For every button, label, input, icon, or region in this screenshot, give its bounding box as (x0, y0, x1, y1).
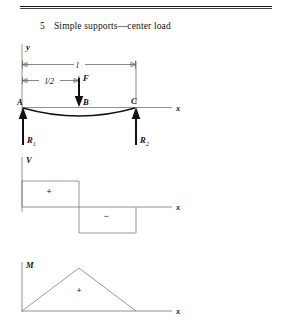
shear-positive-sign: + (46, 186, 51, 196)
moment-positive-sign: + (76, 285, 81, 295)
reaction-left-label: R (26, 135, 33, 145)
dimension-full-label: l (76, 60, 79, 70)
reaction-right-arrow: R 2 (132, 107, 149, 147)
beam-point-c-label: C (131, 96, 137, 106)
applied-load-arrowhead-icon (75, 96, 84, 107)
deflected-beam-curve (23, 108, 135, 116)
beam-point-b-label: B (82, 97, 89, 107)
dimension-half-span: l/2 (23, 76, 79, 86)
shear-v-axis-label: V (26, 155, 33, 165)
moment-x-axis-label: x (175, 306, 181, 316)
beam-diagram-group: y x l (16, 42, 181, 147)
beam-point-a-label: A (16, 97, 23, 107)
shear-x-axis-label: x (175, 202, 181, 212)
moment-diagram-group: M x + (22, 260, 181, 316)
dimension-half-label: l/2 (45, 76, 55, 86)
applied-load-label: F (82, 73, 89, 83)
beam-y-axis-label: y (25, 42, 30, 52)
reaction-left-subscript: 1 (33, 141, 36, 147)
beam-x-axis-label: x (175, 103, 181, 113)
figure-page: 5Simple supports—center load y x l (0, 0, 290, 332)
reaction-right-label: R (139, 135, 146, 145)
shear-negative-sign: − (103, 211, 108, 221)
reaction-left-arrow: R 1 (19, 107, 36, 147)
reaction-right-subscript: 2 (146, 141, 149, 147)
shear-diagram-group: V x + − (22, 155, 181, 233)
moment-m-axis-label: M (25, 260, 34, 270)
dimension-full-span: l (23, 60, 136, 70)
beam-figure-svg: y x l (0, 0, 290, 332)
